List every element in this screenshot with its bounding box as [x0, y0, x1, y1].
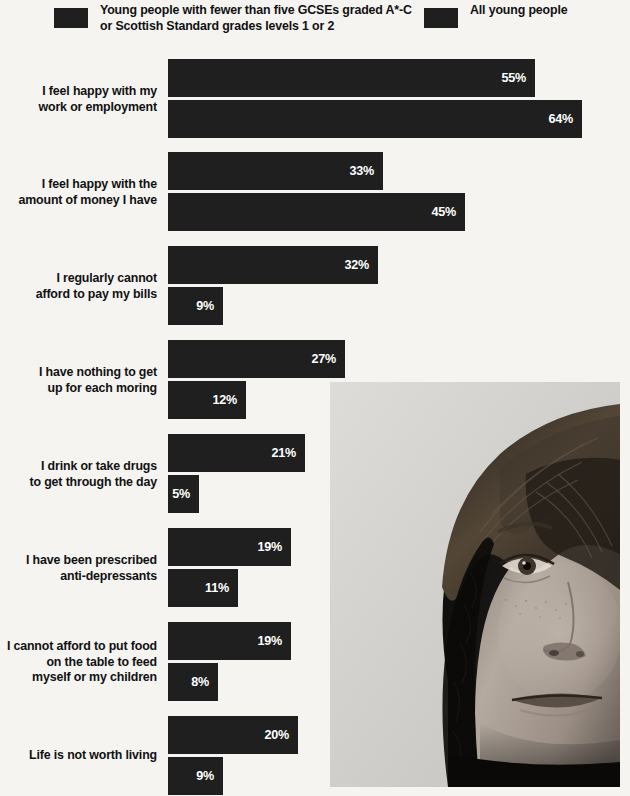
bar-series-all-young-people: 45%: [168, 193, 465, 231]
bar-group-label: I feel happy with the amount of money I …: [0, 177, 157, 208]
bar-series-low-qualifications: 32%: [168, 246, 378, 284]
bar-value-label: 9%: [196, 769, 214, 783]
bar-row: 33%: [168, 152, 383, 190]
bar-series-all-young-people: 64%: [168, 100, 582, 138]
bar-group-label: I drink or take drugs to get through the…: [0, 459, 157, 490]
bar-value-label: 21%: [271, 446, 296, 460]
bar-group-label: I have been prescribed anti-depressants: [0, 553, 157, 584]
bar-value-label: 45%: [431, 205, 456, 219]
bar-series-low-qualifications: 55%: [168, 59, 535, 97]
bar-value-label: 12%: [212, 393, 237, 407]
bar-row: 21%: [168, 434, 305, 472]
bar-row: 8%: [168, 663, 218, 701]
legend-item-label: All young people: [470, 3, 567, 19]
portrait-photo: [330, 382, 620, 787]
bar-value-label: 19%: [257, 634, 282, 648]
bar-series-low-qualifications: 33%: [168, 152, 383, 190]
bar-group-label: I regularly cannot afford to pay my bill…: [0, 271, 157, 302]
bar-series-all-young-people: 5%: [168, 475, 199, 513]
bar-row: 64%: [168, 100, 582, 138]
bar-series-all-young-people: 9%: [168, 757, 223, 795]
legend-swatch-icon: [54, 8, 88, 28]
bar-value-label: 33%: [349, 164, 374, 178]
bar-value-label: 11%: [205, 581, 229, 595]
legend-swatch-icon: [424, 8, 458, 28]
bar-row: 55%: [168, 59, 535, 97]
bar-row: 20%: [168, 716, 298, 754]
bar-row: 11%: [168, 569, 238, 607]
bar-group-label: I feel happy with my work or employment: [0, 84, 157, 115]
bar-value-label: 64%: [548, 112, 573, 126]
bar-series-low-qualifications: 19%: [168, 622, 291, 660]
bar-value-label: 20%: [264, 728, 289, 742]
bar-group: I feel happy with the amount of money I …: [0, 152, 630, 232]
legend-item-low-qualifications: Young people with fewer than five GCSEs …: [54, 3, 412, 34]
bar-value-label: 9%: [196, 299, 214, 313]
bar-series-low-qualifications: 27%: [168, 340, 345, 378]
bar-row: 19%: [168, 622, 291, 660]
bar-row: 9%: [168, 287, 223, 325]
bar-value-label: 32%: [344, 258, 369, 272]
bar-value-label: 5%: [172, 487, 190, 501]
bar-series-all-young-people: 11%: [168, 569, 238, 607]
bar-group: I feel happy with my work or employment …: [0, 59, 630, 139]
bar-value-label: 8%: [191, 675, 209, 689]
bar-value-label: 19%: [257, 540, 282, 554]
bar-value-label: 27%: [311, 352, 336, 366]
bar-series-low-qualifications: 20%: [168, 716, 298, 754]
bar-series-all-young-people: 8%: [168, 663, 218, 701]
bar-row: 19%: [168, 528, 291, 566]
bar-group: I regularly cannot afford to pay my bill…: [0, 246, 630, 326]
legend-item-all-young-people: All young people: [424, 3, 567, 28]
bar-row: 12%: [168, 381, 246, 419]
legend-item-label: Young people with fewer than five GCSEs …: [100, 3, 412, 34]
bar-group-label: I have nothing to get up for each moring: [0, 365, 157, 396]
portrait-photo-graphic: [330, 382, 620, 787]
bar-group-label: Life is not worth living: [0, 748, 157, 764]
bar-series-all-young-people: 12%: [168, 381, 246, 419]
bar-group-label: I cannot afford to put food on the table…: [0, 639, 157, 686]
infographic-page: Young people with fewer than five GCSEs …: [0, 0, 630, 796]
bar-row: 32%: [168, 246, 378, 284]
bar-series-low-qualifications: 21%: [168, 434, 305, 472]
bar-row: 9%: [168, 757, 223, 795]
bar-value-label: 55%: [501, 71, 526, 85]
chart-legend: Young people with fewer than five GCSEs …: [0, 0, 630, 46]
bar-row: 5%: [168, 475, 199, 513]
bar-series-all-young-people: 9%: [168, 287, 223, 325]
bar-series-low-qualifications: 19%: [168, 528, 291, 566]
bar-row: 27%: [168, 340, 345, 378]
bar-row: 45%: [168, 193, 465, 231]
